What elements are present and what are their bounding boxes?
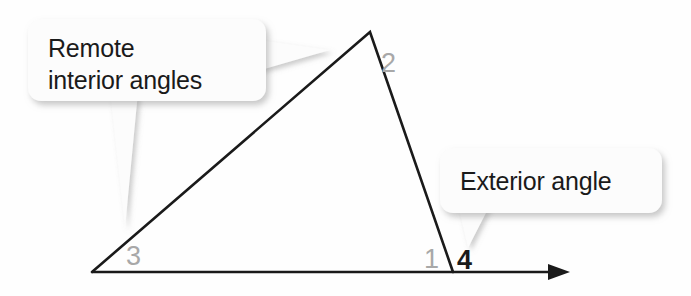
angle-label-1: 1: [424, 244, 439, 274]
callout-line-interior-angles: interior angles: [48, 66, 202, 94]
angle-label-4: 4: [457, 245, 472, 275]
callout-line-remote: Remote: [48, 34, 134, 62]
angle-label-2: 2: [381, 48, 396, 78]
triangle-exterior-angle-diagram: Remote interior angles Exterior angle 2 …: [0, 0, 691, 296]
diagram-canvas: Remote interior angles Exterior angle 2 …: [0, 0, 691, 296]
callout-line-exterior-angle: Exterior angle: [460, 167, 611, 195]
angle-label-3: 3: [126, 241, 141, 271]
